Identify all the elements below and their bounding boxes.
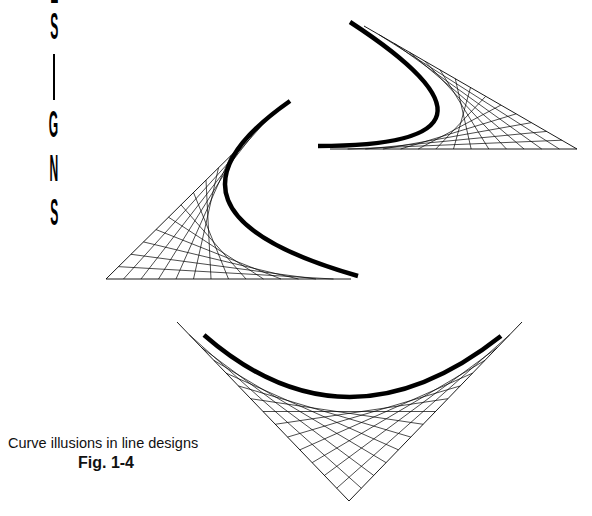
string-line	[379, 35, 559, 149]
top-right-string-art	[318, 22, 577, 149]
string-line	[124, 118, 269, 279]
bold-curve	[318, 22, 438, 146]
title-letter-s2: S	[50, 194, 58, 269]
bottom-string-art	[177, 322, 522, 501]
figure-caption: Curve illusions in line designs	[8, 435, 198, 451]
bold-curve	[225, 101, 358, 276]
string-line	[194, 193, 229, 280]
vertical-title-designs: E S G N S	[44, 0, 64, 238]
middle-left-string-art	[106, 101, 358, 279]
figure-number: Fig. 1-4	[78, 454, 134, 472]
title-letter-s: S	[50, 8, 58, 83]
